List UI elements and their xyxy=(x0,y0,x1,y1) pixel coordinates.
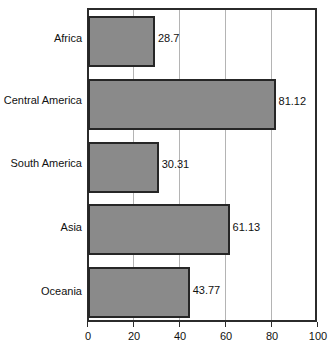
x-tick-60 xyxy=(225,322,226,327)
bar-chart: Africa Central America South America Asi… xyxy=(0,0,334,347)
x-tick-40 xyxy=(179,322,180,327)
bar-3[interactable] xyxy=(88,204,230,255)
value-label-3: 61.13 xyxy=(233,222,261,233)
x-tick-label-60: 60 xyxy=(220,330,232,342)
x-tick-label-100: 100 xyxy=(309,330,327,342)
bar-1[interactable] xyxy=(88,79,276,130)
x-tick-0 xyxy=(87,322,88,327)
bar-row xyxy=(89,16,315,67)
bar-2[interactable] xyxy=(88,142,159,193)
bar-row xyxy=(89,204,315,255)
bar-0[interactable] xyxy=(88,16,155,67)
category-label-0: Africa xyxy=(54,33,82,44)
value-label-4: 43.77 xyxy=(193,285,221,296)
category-label-4: Oceania xyxy=(41,286,82,297)
bar-row xyxy=(89,142,315,193)
value-label-1: 81.12 xyxy=(279,96,307,107)
category-label-3: Asia xyxy=(61,222,82,233)
x-tick-100 xyxy=(317,322,318,327)
bar-4[interactable] xyxy=(88,267,190,318)
value-label-2: 30.31 xyxy=(162,159,190,170)
x-tick-80 xyxy=(271,322,272,327)
category-label-2: South America xyxy=(10,158,82,169)
x-tick-label-80: 80 xyxy=(266,330,278,342)
x-tick-20 xyxy=(133,322,134,327)
category-label-1: Central America xyxy=(4,95,82,106)
x-tick-label-40: 40 xyxy=(174,330,186,342)
value-label-0: 28.7 xyxy=(158,33,179,44)
plot-area xyxy=(87,8,317,322)
x-tick-label-20: 20 xyxy=(128,330,140,342)
x-tick-label-0: 0 xyxy=(85,330,91,342)
